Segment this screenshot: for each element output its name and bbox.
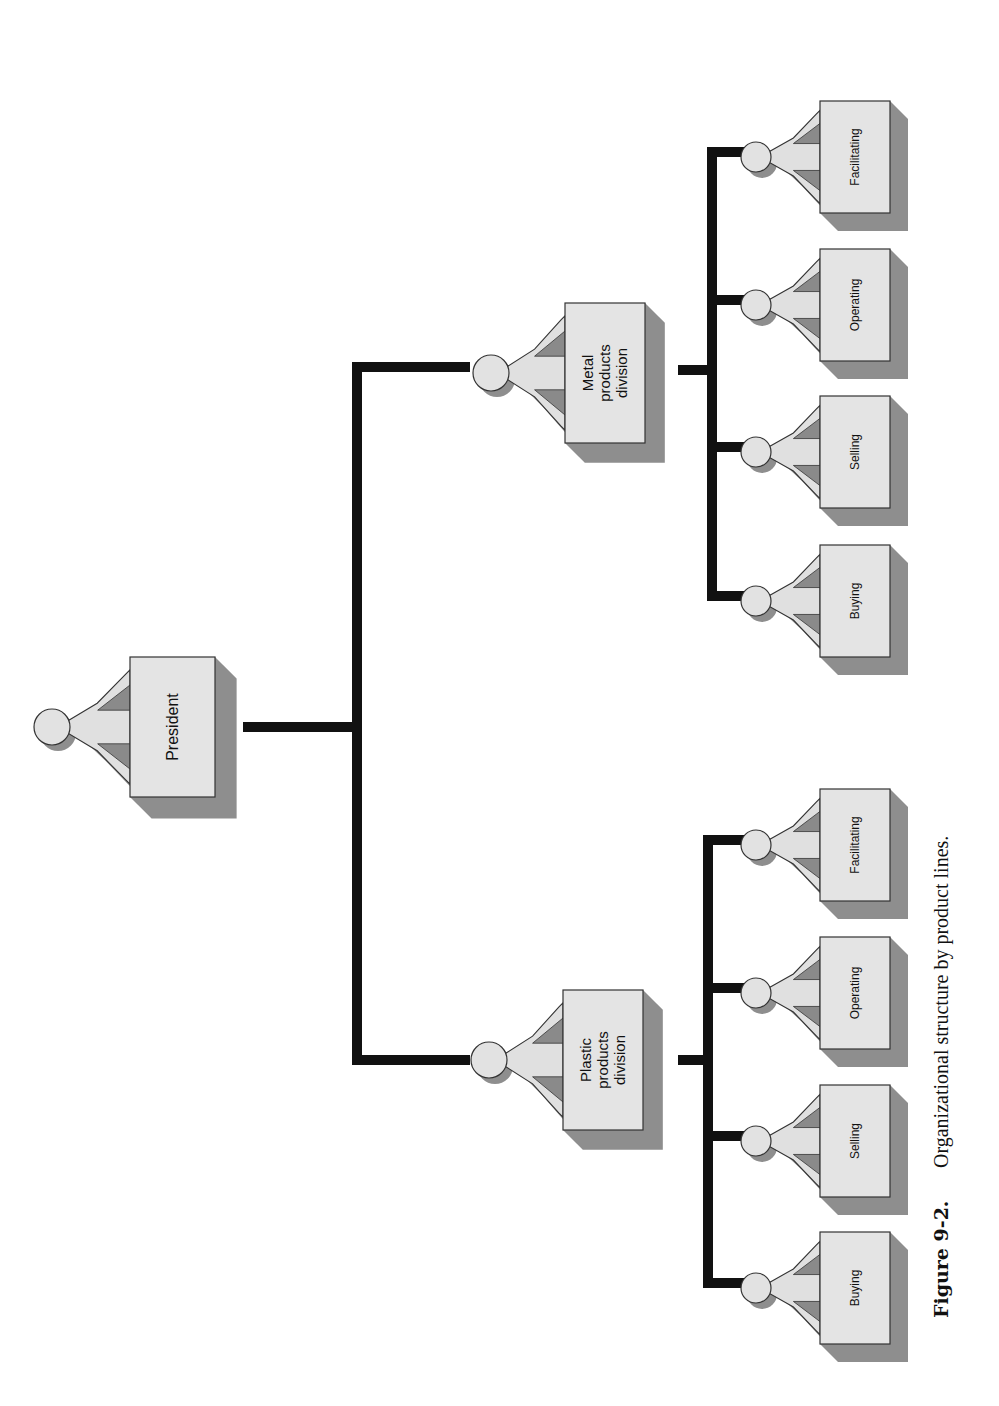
- org-node-metal-facilitating[interactable]: Facilitating: [741, 101, 908, 231]
- org-node-plastic-products-division[interactable]: Plasticproductsdivision: [471, 990, 663, 1150]
- org-node-metal-products-division[interactable]: Metalproductsdivision: [473, 303, 665, 463]
- head-icon: [741, 142, 771, 172]
- person-icon: [741, 1094, 820, 1189]
- person-icon: [473, 316, 565, 432]
- figure-caption: Figure 9-2. Organizational structure by …: [930, 836, 953, 1318]
- person-icon: [741, 798, 820, 893]
- node-label: division: [613, 348, 630, 398]
- head-icon: [741, 978, 771, 1008]
- org-node-metal-selling[interactable]: Selling: [741, 396, 908, 526]
- org-node-plastic-selling[interactable]: Selling: [741, 1085, 908, 1215]
- org-node-plastic-operating[interactable]: Operating: [741, 937, 908, 1067]
- caption-text: Organizational structure by product line…: [930, 836, 953, 1168]
- node-label: Facilitating: [848, 128, 862, 185]
- connector-division-bracket: [357, 367, 470, 1060]
- person-icon: [741, 258, 820, 353]
- org-nodes: PresidentMetalproductsdivisionFacilitati…: [34, 101, 908, 1362]
- node-label: Operating: [848, 279, 862, 332]
- person-icon: [471, 1003, 563, 1119]
- head-icon: [741, 830, 771, 860]
- org-node-metal-operating[interactable]: Operating: [741, 249, 908, 379]
- head-icon: [741, 290, 771, 320]
- head-icon: [741, 437, 771, 467]
- person-icon: [34, 670, 130, 786]
- node-label: Selling: [848, 1123, 862, 1159]
- person-icon: [741, 946, 820, 1041]
- person-icon: [741, 1241, 820, 1336]
- node-label: Selling: [848, 434, 862, 470]
- head-icon: [34, 709, 70, 745]
- connector-dept-bracket: [708, 840, 745, 1283]
- head-icon: [471, 1042, 507, 1078]
- node-label: Metal: [579, 355, 596, 392]
- org-node-metal-buying[interactable]: Buying: [741, 545, 908, 675]
- person-icon: [741, 110, 820, 205]
- node-label: Facilitating: [848, 816, 862, 873]
- head-icon: [741, 1126, 771, 1156]
- node-label: Plastic: [577, 1037, 594, 1082]
- node-label: division: [611, 1035, 628, 1085]
- connector-dept-bracket: [712, 152, 745, 596]
- head-icon: [741, 1273, 771, 1303]
- node-label: Operating: [848, 967, 862, 1020]
- org-node-plastic-facilitating[interactable]: Facilitating: [741, 789, 908, 919]
- connector-lines: [243, 152, 745, 1283]
- node-label: Buying: [848, 583, 862, 620]
- org-chart-diagram: PresidentMetalproductsdivisionFacilitati…: [0, 0, 999, 1406]
- node-label: Buying: [848, 1270, 862, 1307]
- node-label: products: [594, 1031, 611, 1089]
- head-icon: [741, 586, 771, 616]
- caption-label: Figure 9-2.: [930, 1201, 952, 1318]
- org-node-plastic-buying[interactable]: Buying: [741, 1232, 908, 1362]
- node-label: products: [596, 344, 613, 402]
- person-icon: [741, 554, 820, 649]
- person-icon: [741, 405, 820, 500]
- org-node-president[interactable]: President: [34, 657, 237, 819]
- node-label: President: [164, 693, 181, 761]
- head-icon: [473, 355, 509, 391]
